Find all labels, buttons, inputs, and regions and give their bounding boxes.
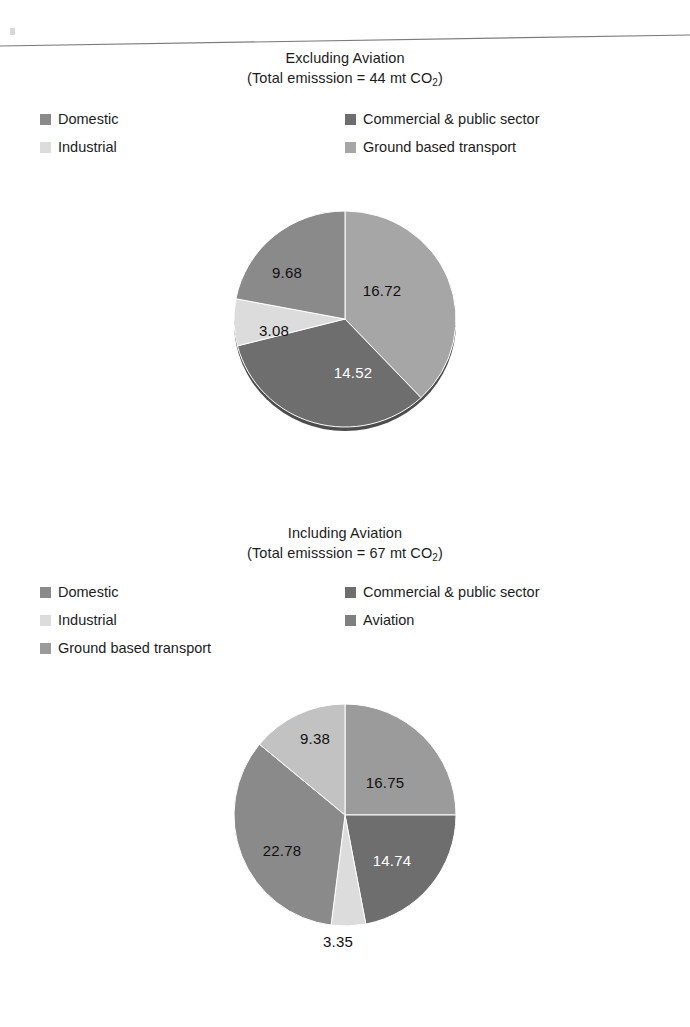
legend-item-commercial-public-sector[interactable]: Commercial & public sector — [345, 111, 539, 128]
chart-1-slice-label-commercial-public-sector: 14.52 — [334, 364, 373, 381]
chart-2-title: Including Aviation (Total emisssion = 67… — [0, 523, 690, 565]
legend-label-industrial: Industrial — [58, 612, 117, 629]
legend-swatch-ground-based-transport — [345, 142, 356, 153]
legend-label-aviation: Aviation — [363, 612, 414, 629]
chart-1-total-pre: (Total emisssion = 44 mt CO — [247, 70, 432, 86]
legend-label-domestic: Domestic — [58, 111, 118, 128]
chart-1-pie-svg — [210, 195, 480, 445]
chart-1-co2-subscript: 2 — [432, 77, 438, 88]
chart-2-slice-label-commercial-public-sector: 14.74 — [373, 852, 412, 869]
legend-swatch-ground-based-transport — [40, 643, 51, 654]
legend-item-aviation[interactable]: Aviation — [345, 612, 414, 629]
scan-speck — [10, 28, 15, 35]
legend-label-industrial: Industrial — [58, 139, 117, 156]
legend-item-domestic[interactable]: Domestic — [40, 111, 118, 128]
chart-1-slice-label-ground-based-transport: 16.72 — [363, 282, 402, 299]
chart-1-slice-label-industrial: 3.08 — [259, 322, 289, 339]
chart-2-slice-label-aviation: 9.38 — [300, 730, 330, 747]
chart-2-slice-label-industrial: 3.35 — [323, 933, 353, 950]
chart-1-legend: Domestic Industrial Commercial & public … — [35, 111, 655, 173]
legend-label-commercial-public-sector: Commercial & public sector — [363, 111, 539, 128]
chart-excluding-aviation: Excluding Aviation (Total emisssion = 44… — [0, 48, 690, 445]
chart-2-co2-subscript: 2 — [432, 552, 438, 563]
chart-including-aviation: Including Aviation (Total emisssion = 67… — [0, 523, 690, 955]
legend-swatch-domestic — [40, 114, 51, 125]
chart-2-slice-label-domestic: 16.75 — [366, 774, 405, 791]
legend-item-ground-based-transport[interactable]: Ground based transport — [345, 139, 516, 156]
legend-swatch-aviation — [345, 615, 356, 626]
legend-label-ground-based-transport: Ground based transport — [363, 139, 516, 156]
legend-label-commercial-public-sector: Commercial & public sector — [363, 584, 539, 601]
legend-swatch-industrial — [40, 615, 51, 626]
legend-item-industrial[interactable]: Industrial — [40, 139, 117, 156]
chart-2-slice-label-ground-based-transport: 22.78 — [263, 842, 302, 859]
legend-swatch-domestic — [40, 587, 51, 598]
chart-2-title-line2: (Total emisssion = 67 mt CO2) — [0, 543, 690, 565]
chart-1-total-post: ) — [438, 70, 443, 86]
legend-item-industrial[interactable]: Industrial — [40, 612, 117, 629]
chart-1-pie: 16.72 14.52 3.08 9.68 — [210, 195, 480, 445]
legend-swatch-commercial-public-sector — [345, 587, 356, 598]
chart-1-slice-label-domestic: 9.68 — [272, 264, 302, 281]
chart-2-title-line1: Including Aviation — [288, 525, 402, 541]
legend-item-commercial-public-sector[interactable]: Commercial & public sector — [345, 584, 539, 601]
legend-item-ground-based-transport[interactable]: Ground based transport — [40, 640, 211, 657]
chart-1-title-line1: Excluding Aviation — [285, 50, 404, 66]
pie-slice — [345, 704, 456, 815]
legend-label-ground-based-transport: Ground based transport — [58, 640, 211, 657]
legend-swatch-commercial-public-sector — [345, 114, 356, 125]
chart-2-legend: Domestic Industrial Ground based transpo… — [35, 584, 655, 674]
chart-1-title: Excluding Aviation (Total emisssion = 44… — [0, 48, 690, 90]
chart-2-total-pre: (Total emisssion = 67 mt CO — [247, 545, 432, 561]
chart-2-total-post: ) — [438, 545, 443, 561]
legend-label-domestic: Domestic — [58, 584, 118, 601]
legend-item-domestic[interactable]: Domestic — [40, 584, 118, 601]
chart-2-pie-svg — [210, 690, 480, 955]
legend-swatch-industrial — [40, 142, 51, 153]
chart-2-pie: 16.75 14.74 3.35 22.78 9.38 — [210, 690, 480, 955]
chart-1-title-line2: (Total emisssion = 44 mt CO2) — [0, 68, 690, 90]
